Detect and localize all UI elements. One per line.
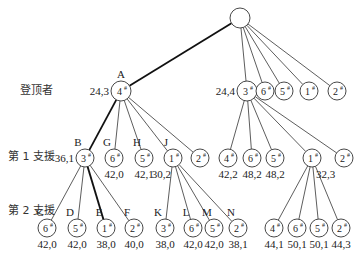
edge-B-D — [78, 167, 84, 219]
tree-node-n: 2#N38,1 — [227, 206, 248, 250]
row-label: 第 1 支援 — [8, 149, 55, 163]
node-number: 2 — [333, 86, 338, 97]
node-number: 6 — [261, 86, 266, 97]
node-value: 42,1 — [134, 168, 153, 180]
node-value: 42,0 — [204, 238, 224, 250]
node-superscript: # — [241, 222, 244, 228]
node-number: 5 — [210, 223, 215, 234]
node-value: 50,1 — [309, 238, 328, 250]
edge-L1b-P5 — [251, 100, 272, 149]
node-value: 24,4 — [216, 85, 236, 97]
node-value: 42,2 — [218, 168, 237, 180]
node-number: 5 — [315, 223, 320, 234]
tree-node-q5: 5#50,1 — [309, 219, 328, 250]
tree-node-a: 4#A24,3 — [90, 68, 131, 101]
row-labels: 登顶者第 1 支援第 2 支援 — [8, 83, 55, 217]
tree-node-b: 3#B36,1 — [55, 136, 94, 167]
tree-node-l1f: 2# — [328, 82, 346, 100]
node-number: 6 — [189, 223, 194, 234]
node-value: 42,0 — [67, 238, 87, 250]
tree-edges — [51, 23, 337, 221]
node-superscript: # — [80, 222, 83, 228]
edge-L1b-P6 — [248, 101, 252, 149]
node-superscript: # — [255, 152, 258, 158]
edge-root-L1c — [243, 27, 262, 82]
node-superscript: # — [231, 152, 234, 158]
node-value: 50,1 — [287, 238, 306, 250]
node-number: 2 — [337, 223, 342, 234]
node-superscript: # — [287, 85, 290, 91]
node-letter: K — [154, 206, 162, 218]
tree-node-l1d: 5# — [275, 82, 293, 100]
node-value: 44,3 — [331, 238, 351, 250]
node-number: 6 — [110, 153, 115, 164]
node-number: 6 — [43, 223, 48, 234]
node-value: 42,0 — [183, 238, 203, 250]
node-value: 24,3 — [90, 85, 110, 97]
node-letter: E — [96, 206, 103, 218]
node-superscript: # — [196, 222, 199, 228]
node-letter: F — [124, 206, 130, 218]
row-label: 登顶者 — [20, 83, 53, 97]
node-superscript: # — [217, 222, 220, 228]
edge-L1b-P4 — [230, 101, 244, 150]
node-superscript: # — [268, 85, 271, 91]
node-superscript: # — [322, 222, 325, 228]
tree-node-q4: 4#44,1 — [264, 219, 283, 250]
tree-node-e: 1#E38,0 — [96, 206, 116, 250]
node-superscript: # — [124, 85, 127, 91]
node-number: 2 — [130, 223, 135, 234]
node-superscript: # — [250, 85, 253, 91]
tree-node-f: 2#F40,0 — [124, 206, 144, 250]
node-superscript: # — [300, 222, 303, 228]
node-number: 4 — [224, 153, 229, 164]
node-number: 5 — [73, 223, 78, 234]
node-number: 3 — [243, 86, 248, 97]
tree-node-p6: 6#48,2 — [242, 149, 261, 180]
node-value: 48,2 — [265, 168, 284, 180]
node-superscript: # — [147, 152, 150, 158]
node-superscript: # — [50, 222, 53, 228]
tree-node-q6: 6#50,1 — [287, 219, 306, 250]
node-number: 3 — [161, 223, 166, 234]
node-superscript: # — [88, 152, 91, 158]
tree-node-l: 6#L42,0 — [183, 206, 203, 250]
node-superscript: # — [117, 152, 120, 158]
node-number: 1 — [308, 153, 313, 164]
node-superscript: # — [340, 85, 343, 91]
node-letter: G — [103, 136, 111, 148]
node-number: 5 — [140, 153, 145, 164]
tree-node-d: 5#D42,0 — [66, 206, 87, 250]
node-number: 1 — [169, 153, 174, 164]
node-superscript: # — [176, 152, 179, 158]
node-number: 1 — [305, 86, 310, 97]
node-value: 32,3 — [316, 168, 336, 180]
node-superscript: # — [312, 85, 315, 91]
node-value: 42,0 — [37, 238, 57, 250]
node-value: 44,1 — [264, 238, 283, 250]
node-letter: J — [164, 136, 169, 148]
tree-nodes: 4#A24,33#24,46#5#1#2#3#B36,16#G42,05#H42… — [36, 8, 353, 250]
node-number: 4 — [270, 223, 275, 234]
tree-node-m: 5#M42,0 — [202, 206, 224, 250]
node-value: 36,1 — [55, 152, 74, 164]
tree-node-q2: 2#44,3 — [331, 219, 351, 250]
node-value: 40,0 — [124, 238, 144, 250]
tree-node-l1c: 6# — [256, 82, 274, 100]
node-letter: D — [66, 206, 74, 218]
node-letter: H — [133, 136, 141, 148]
node-superscript: # — [168, 222, 171, 228]
node-number: 1 — [102, 223, 107, 234]
tree-node-p2: 2# — [335, 149, 353, 167]
node-letter: M — [202, 206, 212, 218]
node-number: 5 — [271, 153, 276, 164]
edge-L1b-P2 — [255, 97, 336, 153]
edge-A-G — [115, 101, 120, 149]
edge-root-A — [130, 23, 232, 86]
node-superscript: # — [278, 152, 281, 158]
node-superscript: # — [109, 222, 112, 228]
node-superscript: # — [315, 152, 318, 158]
search-tree-diagram: 4#A24,33#24,46#5#1#2#3#B36,16#G42,05#H42… — [0, 0, 358, 261]
node-superscript: # — [344, 222, 347, 228]
tree-node-k: 3#K38,0 — [154, 206, 175, 250]
